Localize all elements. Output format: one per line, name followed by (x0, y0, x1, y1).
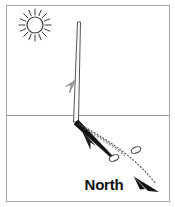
shadow-stick-diagram: North (0, 0, 175, 207)
diagram-canvas: North (0, 0, 175, 207)
north-label: North (85, 176, 124, 193)
